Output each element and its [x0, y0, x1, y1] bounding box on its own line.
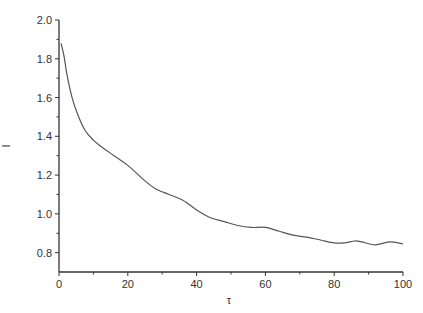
- y-tick-label: 2.0: [37, 14, 52, 26]
- y-tick-label: 0.8: [37, 247, 52, 259]
- x-tick-label: 60: [259, 278, 271, 290]
- x-tick-label: 20: [122, 278, 134, 290]
- y-axis-label: I: [0, 144, 12, 147]
- y-tick-label: 1.8: [37, 53, 52, 65]
- y-tick-label: 1.4: [37, 130, 52, 142]
- x-tick-label: 40: [190, 278, 202, 290]
- y-tick-label: 1.0: [37, 208, 52, 220]
- chart: 0204060801000.81.01.21.41.61.82.0 τ I: [0, 0, 423, 313]
- line-chart: 0204060801000.81.01.21.41.61.82.0 τ I: [0, 0, 423, 313]
- y-tick-label: 1.6: [37, 92, 52, 104]
- y-tick-label: 1.2: [37, 169, 52, 181]
- x-tick-label: 80: [328, 278, 340, 290]
- data-line: [61, 43, 403, 245]
- ticks: 0204060801000.81.01.21.41.61.82.0: [37, 14, 412, 290]
- x-axis-label: τ: [227, 294, 232, 306]
- x-tick-label: 100: [394, 278, 412, 290]
- x-tick-label: 0: [56, 278, 62, 290]
- axes: [59, 20, 403, 272]
